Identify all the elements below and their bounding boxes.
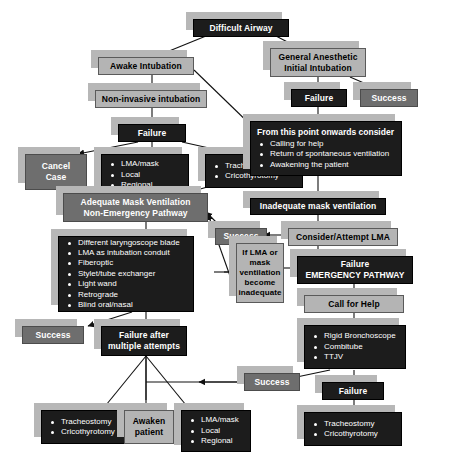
list-item: Stylet/tube exchanger [67,269,189,279]
node-awaken-patient[interactable]: Awaken patient [124,410,174,444]
node-from-this-point-onwards[interactable]: From this point onwards consider Calling… [250,121,402,176]
node-label-line4: become [241,278,280,288]
node-label-line2: Initial Intubation [280,63,355,74]
list-item: Local [110,170,184,180]
node-non-invasive-intubation[interactable]: Non-invasive intubation [95,90,207,108]
node-success-general-anesthetic[interactable]: Success [360,89,418,107]
node-label: Call for Help [324,299,383,310]
node-if-lma-or-mask-inadequate[interactable]: If LMA or mask ventilation become inadeq… [236,243,284,303]
node-label-line2: Case [42,172,71,183]
node-rigid-bronchoscope-list[interactable]: Rigid Bronchoscope Combitube TTJV [304,325,406,369]
list-item: Rigid Bronchoscope [313,331,401,341]
node-consider-attempt-lma[interactable]: Consider/Attempt LMA [288,228,398,246]
list-item: Blind oral/nasal [67,300,189,310]
node-label-line1: Failure [337,259,374,270]
list-item: Light wand [67,279,189,289]
node-label-line5: inadequate [234,288,285,298]
node-label: Success [250,377,293,388]
list-item: Combitube [313,342,401,352]
node-label-line1: If LMA or [238,248,281,258]
node-label-line2: mask [246,258,275,268]
node-label-line2: patient [131,427,168,438]
node-label: Success [367,93,410,104]
node-label: Inadequate mask ventilation [256,201,381,212]
node-cancel-case[interactable]: Cancel Case [25,154,87,190]
list-item: Different laryngoscope blade [67,238,189,248]
node-tracheostomy-cricothyrotomy-3[interactable]: Tracheostomy Cricothyrotomy [304,412,402,446]
node-awake-intubation[interactable]: Awake Intubation [98,57,194,75]
list-item: Regional [190,436,246,446]
node-general-anesthetic[interactable]: General Anesthetic Initial Intubation [270,48,366,77]
list-item: Local [190,426,246,436]
node-failure-after-multiple-attempts[interactable]: Failure after multiple attempts [101,326,187,356]
list-item: Retrograde [67,290,189,300]
node-label-line2: EMERGENCY PATHWAY [301,270,408,281]
node-label-line2: multiple attempts [104,341,184,352]
node-call-for-help[interactable]: Call for Help [304,295,404,313]
list-item: Calling for help [259,139,397,149]
node-label: Success [31,330,74,341]
node-label-line1: Failure after [115,330,173,341]
list-item: TTJV [313,352,401,362]
node-inadequate-mask-ventilation[interactable]: Inadequate mask ventilation [250,198,386,215]
list-item: LMA as intubation conduit [67,248,189,258]
node-label-line3: ventilation [235,268,284,278]
node-failure-general-anesthetic[interactable]: Failure [291,89,347,107]
node-failure-awake[interactable]: Failure [118,124,186,142]
list-item: Awakening the patient [259,160,397,170]
difficult-airway-flowchart: Difficult Airway Awake Intubation Non-in… [0,0,468,460]
list-item: LMA/mask [190,415,246,425]
node-label: Awake Intubation [106,61,186,72]
node-failure-emergency-final[interactable]: Failure [322,382,384,400]
node-adequate-mask-ventilation[interactable]: Adequate Mask Ventilation Non-Emergency … [63,193,208,222]
node-label: Non-invasive intubation [98,94,205,105]
node-heading: From this point onwards consider [251,127,401,139]
node-success-options[interactable]: Success [22,326,84,344]
node-label: Difficult Airway [205,23,276,34]
node-difficult-airway[interactable]: Difficult Airway [193,19,289,37]
list-item: Tracheostomy [313,419,397,429]
node-label: Failure [301,93,338,104]
node-failure-emergency-pathway[interactable]: Failure EMERGENCY PATHWAY [297,256,413,284]
bullet-list: Calling for help Return of spontaneous v… [251,139,401,170]
node-label-line2: Non-Emergency Pathway [79,208,191,219]
list-item: LMA/mask [110,159,184,169]
list-item: Fiberoptic [67,258,189,268]
node-label-line1: General Anesthetic [275,52,362,63]
node-intubation-options-list[interactable]: Different laryngoscope blade LMA as intu… [58,236,194,312]
node-success-emergency[interactable]: Success [244,373,300,391]
node-label-line1: Adequate Mask Ventilation [76,197,194,208]
node-label: Consider/Attempt LMA [292,232,394,243]
list-item: Cricothyrotomy [313,429,397,439]
node-label: Failure [134,128,171,139]
node-lma-local-regional-2[interactable]: LMA/mask Local Regional [181,410,251,452]
bullet-list: LMA/mask Local Regional [182,415,250,446]
node-label-line1: Awaken [129,416,170,427]
bullet-list: Different laryngoscope blade LMA as intu… [59,238,193,311]
bullet-list: Rigid Bronchoscope Combitube TTJV [305,331,405,362]
list-item: Return of spontaneous ventilation [259,149,397,159]
node-label: Failure [335,386,372,397]
node-label-line1: Cancel [38,161,74,172]
bullet-list: Tracheostomy Cricothyrotomy [305,419,401,440]
